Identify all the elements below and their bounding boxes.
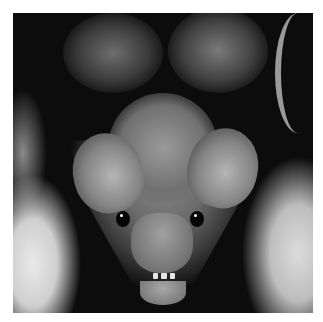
- fur-left: [63, 13, 163, 93]
- bat-snout: [131, 213, 193, 273]
- left-eye: [116, 211, 130, 227]
- teeth: [153, 273, 175, 279]
- wing-edge: [275, 13, 313, 133]
- bat-photo: [13, 13, 313, 313]
- bat-chin: [140, 281, 186, 305]
- fur-right: [168, 13, 268, 93]
- right-eye: [190, 211, 204, 227]
